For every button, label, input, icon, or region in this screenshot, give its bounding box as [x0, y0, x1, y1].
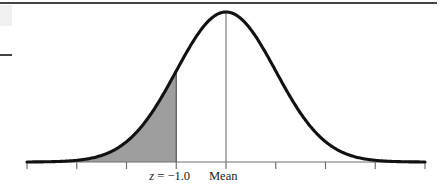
distribution-chart-svg — [0, 0, 442, 192]
mean-label: Mean — [209, 170, 237, 183]
z-value-text: = −1.0 — [154, 169, 190, 183]
x-axis-ticks — [27, 162, 425, 169]
normal-curve-figure: z = −1.0 Mean — [0, 0, 442, 192]
reference-lines — [176, 12, 226, 162]
x-axis-group — [27, 162, 425, 169]
shaded-tail-area — [27, 71, 176, 162]
z-value-label: z = −1.0 — [149, 170, 190, 183]
